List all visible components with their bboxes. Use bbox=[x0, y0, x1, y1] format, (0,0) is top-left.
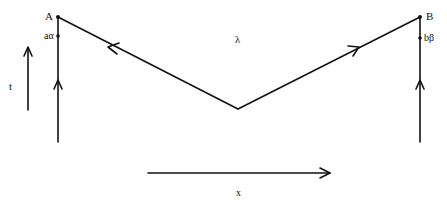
point-a-alpha-dot bbox=[56, 34, 60, 38]
time-axis-label: t bbox=[9, 81, 12, 92]
lambda-left-branch bbox=[58, 17, 238, 109]
point-b-beta-dot bbox=[418, 36, 422, 40]
b-beta-label: bβ bbox=[424, 33, 434, 43]
a-alpha-label: aα bbox=[44, 31, 54, 41]
space-axis-label: x bbox=[236, 188, 241, 198]
lambda-right-branch bbox=[238, 17, 420, 109]
point-a-dot bbox=[56, 15, 60, 19]
lambda-label: λ bbox=[235, 34, 240, 45]
spacetime-diagram bbox=[0, 0, 447, 204]
point-b-dot bbox=[418, 15, 422, 19]
point-b-label: B bbox=[426, 11, 433, 22]
point-a-label: A bbox=[45, 11, 53, 22]
left-branch-arrow-icon bbox=[108, 43, 119, 54]
